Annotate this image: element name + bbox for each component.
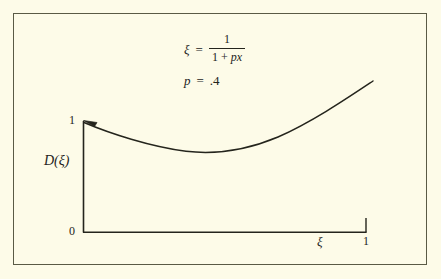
equation-fraction: 1 1+px <box>209 32 245 65</box>
y-axis-tick-label-top: 1 <box>69 114 75 126</box>
equation-equals-sign: = <box>196 42 203 58</box>
figure-container: ξ = 1 1+px p = .4 1 0 D(ξ) ξ 1 <box>0 0 441 279</box>
x-axis-tick-label-right: 1 <box>363 235 369 247</box>
parameter-symbol: p <box>184 73 191 89</box>
y-axis-title: D(ξ) <box>44 154 69 168</box>
parameter-equals-sign: = <box>197 73 204 89</box>
equation-denominator: 1+px <box>209 49 245 65</box>
denominator-second-term: px <box>231 50 242 64</box>
curve-D-of-xi <box>84 81 373 152</box>
denominator-plus-sign: + <box>221 50 228 64</box>
equation-xi-definition: ξ = 1 1+px <box>150 33 310 66</box>
y-axis-tick-label-bottom: 0 <box>69 225 75 237</box>
equation-numerator: 1 <box>219 32 235 48</box>
equation-lhs-symbol: ξ <box>184 42 190 58</box>
equation-parameter-value: p = .4 <box>150 73 310 89</box>
equation-annotation: ξ = 1 1+px p = .4 <box>150 33 310 89</box>
parameter-number: .4 <box>210 73 220 89</box>
x-axis-title: ξ <box>317 235 323 248</box>
denominator-first-term: 1 <box>212 50 218 64</box>
